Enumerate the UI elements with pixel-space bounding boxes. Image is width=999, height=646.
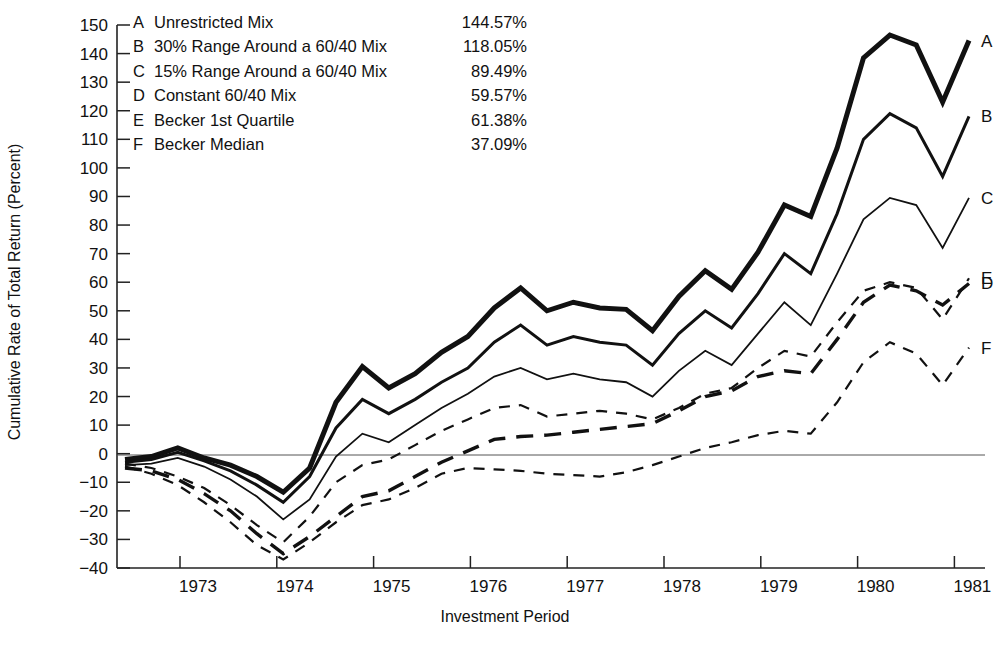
x-tick-label: 1974 bbox=[276, 577, 314, 596]
y-tick-label: 120 bbox=[80, 102, 108, 121]
legend-value-B: 118.05% bbox=[463, 37, 527, 55]
y-tick-label: 40 bbox=[89, 330, 108, 349]
legend-label-F: Becker Median bbox=[154, 135, 264, 153]
x-tick-label: 1973 bbox=[179, 577, 217, 596]
series-end-label-C: C bbox=[981, 189, 993, 208]
legend-key-C: C bbox=[133, 62, 145, 80]
legend-value-A: 144.57% bbox=[462, 13, 527, 31]
legend-value-D: 59.57% bbox=[471, 86, 527, 104]
legend-key-B: B bbox=[133, 37, 144, 55]
x-axis-title: Investment Period bbox=[441, 608, 570, 625]
y-axis-title: Cumulative Rate of Total Return (Percent… bbox=[6, 144, 23, 441]
y-tick-label: 70 bbox=[89, 245, 108, 264]
legend-key-A: A bbox=[133, 13, 144, 31]
x-tick-label: 1977 bbox=[566, 577, 604, 596]
x-tick-label: 1981 bbox=[953, 577, 991, 596]
series-end-label-B: B bbox=[981, 107, 992, 126]
y-tick-label: 140 bbox=[80, 45, 108, 64]
series-end-label-F: F bbox=[981, 339, 991, 358]
y-tick-label: 10 bbox=[89, 416, 108, 435]
legend-label-A: Unrestricted Mix bbox=[154, 13, 274, 31]
x-tick-label: 1978 bbox=[663, 577, 701, 596]
y-tick-label: 130 bbox=[80, 73, 108, 92]
y-tick-label: 20 bbox=[89, 388, 108, 407]
legend-key-F: F bbox=[133, 135, 143, 153]
legend-value-E: 61.38% bbox=[471, 111, 527, 129]
y-tick-label: −30 bbox=[79, 530, 108, 549]
chart-figure: Cumulative Rate of Total Return (Percent… bbox=[0, 0, 999, 646]
legend-label-B: 30% Range Around a 60/40 Mix bbox=[154, 37, 388, 55]
x-tick-label: 1980 bbox=[857, 577, 895, 596]
legend-key-D: D bbox=[133, 86, 145, 104]
legend-value-F: 37.09% bbox=[471, 135, 527, 153]
y-tick-label: 80 bbox=[89, 216, 108, 235]
x-tick-label: 1979 bbox=[760, 577, 798, 596]
y-tick-label: −10 bbox=[79, 473, 108, 492]
y-tick-label: 0 bbox=[99, 445, 108, 464]
legend-label-C: 15% Range Around a 60/40 Mix bbox=[154, 62, 388, 80]
y-tick-label: 110 bbox=[81, 130, 108, 149]
legend-key-E: E bbox=[133, 111, 144, 129]
y-tick-label: 150 bbox=[80, 16, 108, 35]
x-tick-label: 1975 bbox=[373, 577, 411, 596]
y-tick-label: −20 bbox=[79, 502, 108, 521]
x-tick-label: 1976 bbox=[469, 577, 507, 596]
y-tick-label: 100 bbox=[80, 159, 108, 178]
y-tick-label: 30 bbox=[89, 359, 108, 378]
cumulative-return-line-chart: Cumulative Rate of Total Return (Percent… bbox=[0, 0, 999, 646]
series-end-label-A: A bbox=[981, 32, 993, 51]
y-tick-label: −40 bbox=[79, 559, 108, 578]
y-tick-label: 50 bbox=[89, 302, 108, 321]
y-tick-label: 60 bbox=[89, 273, 108, 292]
legend-value-C: 89.49% bbox=[471, 62, 527, 80]
series-end-label-E: E bbox=[981, 269, 992, 288]
legend-label-E: Becker 1st Quartile bbox=[154, 111, 294, 129]
legend-label-D: Constant 60/40 Mix bbox=[154, 86, 297, 104]
y-tick-label: 90 bbox=[89, 187, 108, 206]
